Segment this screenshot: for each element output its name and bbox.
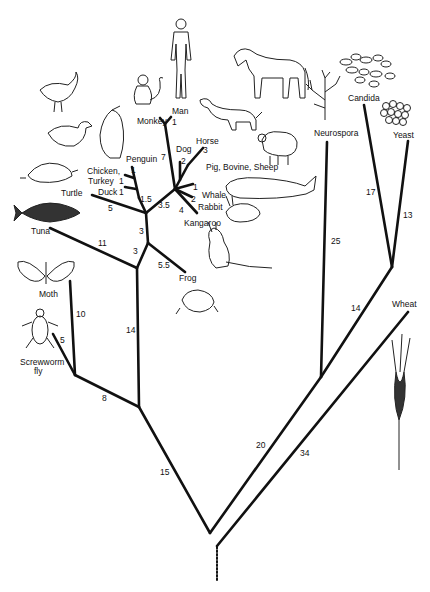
num-horse: 3 (203, 145, 208, 155)
neurospora-illustration (306, 70, 340, 120)
penguin-illustration (100, 106, 124, 158)
branch-moth (70, 281, 75, 375)
label-yeast: Yeast (393, 130, 414, 140)
branch-yeast (392, 141, 408, 267)
num-candida: 17 (366, 187, 375, 197)
rabbit-illustration (226, 196, 260, 222)
label-turtle: Turtle (61, 188, 82, 198)
num-mammals: 3.5 (158, 200, 170, 210)
num-turtle: 5 (108, 203, 113, 213)
branch-wheat (217, 312, 408, 546)
label-neurospora: Neurospora (314, 128, 358, 138)
tuna-illustration (14, 203, 80, 222)
turtle-illustration (20, 163, 78, 182)
yeast-illustration (381, 101, 411, 126)
num-pig: 1 (193, 182, 198, 192)
sheep-illustration (258, 132, 297, 165)
label-whale: Whale (202, 190, 226, 200)
label-frog: Frog (179, 273, 196, 283)
num-tuna: 11 (98, 238, 107, 248)
whale-illustration (226, 176, 316, 199)
num-yeasts-stem: 14 (351, 303, 360, 313)
num-tetrapods: 3 (133, 246, 138, 256)
label-turkey: Turkey (88, 176, 114, 186)
num-insects: 8 (102, 393, 107, 403)
chicken-illustration (40, 72, 78, 112)
num-primates: 7 (161, 152, 166, 162)
label-man: Man (172, 106, 189, 116)
man-illustration (171, 19, 191, 98)
label-kangaroo: Kangaroo (184, 218, 221, 228)
label-wheat: Wheat (392, 299, 417, 309)
branch-neurospora (321, 142, 327, 377)
branch-duck (125, 187, 136, 189)
label-candida: Candida (348, 93, 380, 103)
label-penguin: Penguin (126, 154, 157, 164)
branch-primates (165, 124, 175, 189)
candida-illustration (340, 54, 395, 87)
num-dog: 2 (181, 156, 186, 166)
num-penguin: 1 (131, 165, 136, 175)
label-monkey: Monkey (137, 116, 167, 126)
branch-tetrapods (137, 243, 148, 268)
num-whale-rabbit: 2 (191, 194, 196, 204)
num-man: 1 (172, 117, 177, 127)
moth-illustration (18, 261, 75, 284)
branch-vertebrates (137, 268, 139, 407)
num-moth: 10 (76, 309, 85, 319)
num-vertebrates: 14 (126, 325, 135, 335)
num-kangaroo: 4 (179, 205, 184, 215)
num-frog: 5.5 (158, 260, 170, 270)
label-duck: Duck (98, 187, 117, 197)
branch-insects (75, 375, 139, 407)
label-tuna: Tuna (31, 226, 50, 236)
label-dog: Dog (176, 144, 192, 154)
branch-yeasts-stem (321, 267, 392, 377)
num-screwworm: 5 (60, 335, 65, 345)
wheat-illustration (392, 334, 410, 470)
num-amniotes: 3 (139, 226, 144, 236)
branch-candida (364, 105, 392, 267)
label-chicken: Chicken, (87, 166, 120, 176)
num-chicken: 1 (119, 176, 124, 186)
num-animals: 15 (160, 467, 169, 477)
phylogenetic-tree (0, 0, 430, 592)
num-birds: 1.5 (140, 194, 152, 204)
num-yeast: 13 (403, 210, 412, 220)
label-moth: Moth (39, 289, 58, 299)
dog-illustration (200, 99, 262, 130)
num-neurospora: 25 (331, 236, 340, 246)
num-wheat: 34 (300, 448, 309, 458)
num-duck: 1 (119, 187, 124, 197)
label-fly: fly (34, 366, 43, 376)
branch-tuna (50, 228, 137, 268)
label-rabbit: Rabbit (198, 202, 223, 212)
kangaroo-illustration (208, 222, 272, 268)
duck-illustration (48, 122, 92, 147)
label-pig-bovine-sheep: Pig, Bovine, Sheep (206, 162, 278, 172)
horse-illustration (234, 49, 309, 98)
frog-illustration (176, 290, 218, 314)
screwworm-fly-illustration (22, 309, 58, 348)
branch-animals (139, 407, 210, 533)
num-fungi: 20 (256, 440, 265, 450)
monkey-illustration (134, 75, 163, 104)
branch-amniotes (146, 213, 148, 243)
